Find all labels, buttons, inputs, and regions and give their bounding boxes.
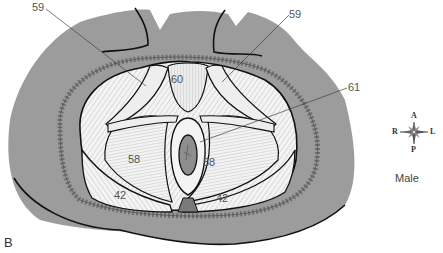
label-58-left: 58 (128, 154, 140, 165)
panel-letter: B (4, 235, 13, 250)
label-60: 60 (171, 74, 183, 85)
compass-posterior: P (411, 146, 416, 154)
compass-left: L (430, 128, 435, 136)
label-42-left: 42 (114, 190, 126, 201)
compass-right: R (392, 128, 398, 136)
label-42-right: 42 (216, 193, 228, 204)
perineum-muscle-diagram (0, 0, 443, 253)
compass-rose: A P R L (392, 110, 436, 154)
sex-label: Male (395, 172, 419, 184)
label-58-right: 58 (203, 157, 215, 168)
compass-anterior: A (411, 112, 417, 120)
label-61: 61 (348, 82, 360, 93)
label-59-left: 59 (32, 2, 44, 13)
anal-opening (179, 135, 197, 175)
label-59-right: 59 (289, 9, 301, 20)
